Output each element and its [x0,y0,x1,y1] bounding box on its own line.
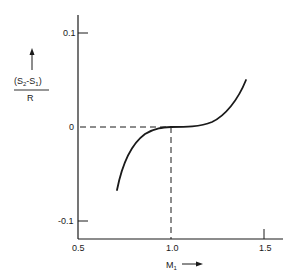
chart-figure: 0.1 0 -0.1 0.5 1.0 1.5 (S2-S1) R M1 [0,0,296,279]
x-tick-label-1.5: 1.5 [259,243,272,253]
x-tick-label-1.0: 1.0 [166,243,179,253]
y-axis-label-denominator: R [27,93,34,103]
data-curve [117,80,246,190]
x-tick-label-0.5: 0.5 [72,243,85,253]
y-axis-label-numerator: (S2-S1) [14,76,42,87]
y-tick-label-0: 0 [69,122,74,132]
x-label-arrowhead-icon [196,262,203,267]
y-label-arrowhead-icon [30,48,35,55]
y-tick-label-0.1: 0.1 [63,28,76,38]
y-tick-label-minus-0.1: -0.1 [58,216,74,226]
x-axis-label: M1 [166,260,178,271]
